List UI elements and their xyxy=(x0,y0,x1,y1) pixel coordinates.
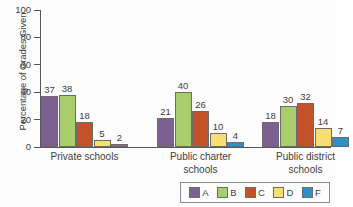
y-axis-tick-label: 80 xyxy=(0,32,31,42)
x-axis-category-label-line: schools xyxy=(141,164,261,177)
legend-item-A[interactable]: A xyxy=(189,187,208,198)
bar-value-label: 38 xyxy=(54,84,80,94)
y-axis-tick-mark xyxy=(34,64,40,65)
legend-swatch-icon xyxy=(302,187,313,198)
chart-legend: ABCDF xyxy=(180,182,330,203)
bar-private-schools-A xyxy=(41,96,58,147)
y-axis-tick-label: 60 xyxy=(0,60,31,70)
bar-value-label: 7 xyxy=(328,126,353,136)
bar-public-district-schools-A xyxy=(262,122,279,147)
legend-item-B[interactable]: B xyxy=(217,187,236,198)
x-axis-line xyxy=(40,147,331,148)
x-axis-category-label: Public charterschools xyxy=(141,151,261,176)
bar-value-label: 2 xyxy=(107,133,133,143)
y-axis-tick-mark xyxy=(34,147,40,148)
y-axis-tick-label: 20 xyxy=(0,115,31,125)
legend-item-D[interactable]: D xyxy=(273,187,293,198)
x-axis-category-label-line: schools xyxy=(246,164,353,177)
legend-label: D xyxy=(286,188,293,198)
bar-public-district-schools-F xyxy=(332,137,349,147)
bar-value-label: 26 xyxy=(188,100,214,110)
y-axis-tick-label: 100 xyxy=(0,5,31,15)
legend-swatch-icon xyxy=(189,187,200,198)
legend-item-C[interactable]: C xyxy=(245,187,265,198)
bar-value-label: 18 xyxy=(72,111,98,121)
y-axis-tick-label: 40 xyxy=(0,87,31,97)
bar-public-charter-schools-F xyxy=(227,142,244,147)
x-axis-category-label-line: Public district xyxy=(246,151,353,164)
legend-label: C xyxy=(258,188,265,198)
bar-value-label: 40 xyxy=(170,81,196,91)
y-axis-tick-mark xyxy=(34,37,40,38)
bar-value-label: 32 xyxy=(293,92,319,102)
y-axis-tick-mark xyxy=(34,119,40,120)
x-axis-category-label: Public districtschools xyxy=(246,151,353,176)
bar-public-charter-schools-A xyxy=(157,118,174,147)
legend-swatch-icon xyxy=(217,187,228,198)
legend-item-F[interactable]: F xyxy=(302,187,321,198)
legend-label: F xyxy=(315,188,321,198)
legend-label: B xyxy=(230,188,236,198)
bar-value-label: 4 xyxy=(223,131,249,141)
x-axis-category-label: Private schools xyxy=(25,151,145,164)
bar-value-label: 14 xyxy=(310,117,336,127)
x-axis-category-label-line: Public charter xyxy=(141,151,261,164)
legend-swatch-icon xyxy=(273,187,284,198)
legend-label: A xyxy=(202,188,208,198)
y-axis-tick-mark xyxy=(34,10,40,11)
legend-swatch-icon xyxy=(245,187,256,198)
bar-public-district-schools-B xyxy=(280,106,297,147)
bar-private-schools-F xyxy=(111,144,128,147)
bar-private-schools-B xyxy=(59,95,76,147)
x-axis-category-label-line: Private schools xyxy=(25,151,145,164)
